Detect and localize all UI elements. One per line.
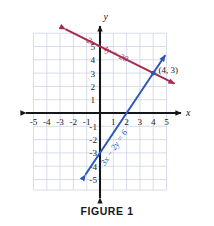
y-tick-label: 2	[90, 82, 95, 92]
y-tick-label: 3	[90, 69, 95, 79]
y-axis-label: y	[103, 11, 109, 22]
x-tick-label: 4	[151, 117, 156, 127]
figure-container: x y -5 -4 -3 -2 -1 1 2 3 4 5 5 4 3 2 1 -…	[0, 0, 214, 226]
x-tick-label: -2	[70, 117, 78, 127]
intersection-point-marker	[151, 71, 156, 76]
y-tick-label: 1	[90, 95, 95, 105]
coordinate-plane-graph: x y -5 -4 -3 -2 -1 1 2 3 4 5 5 4 3 2 1 -…	[0, 0, 214, 226]
x-tick-label: -3	[56, 117, 64, 127]
x-tick-label: -4	[43, 117, 51, 127]
x-tick-label: 5	[164, 117, 169, 127]
y-tick-label: -1	[89, 122, 97, 132]
x-tick-label: 3	[138, 117, 143, 127]
intersection-point-label: (4, 3)	[159, 65, 179, 75]
x-tick-label: -5	[30, 117, 38, 127]
y-tick-label: 4	[90, 55, 95, 65]
x-tick-label: 1	[111, 117, 116, 127]
x-tick-label: 2	[124, 117, 129, 127]
figure-caption: FIGURE 1	[0, 205, 214, 217]
y-tick-label: -5	[89, 175, 97, 185]
x-axis-label: x	[185, 107, 191, 118]
y-tick-label: -2	[89, 135, 97, 145]
